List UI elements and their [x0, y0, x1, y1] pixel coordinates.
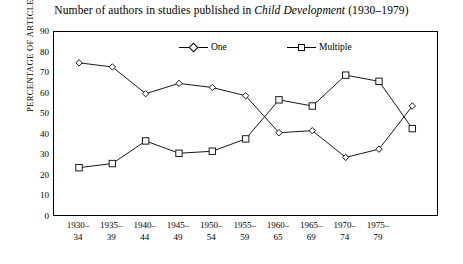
- legend-marker-diamond-icon: [189, 42, 199, 52]
- chart-title-journal: Child Development: [254, 4, 345, 16]
- series-layer: [54, 32, 439, 217]
- data-point-multiple-9: [376, 78, 382, 84]
- y-tick-label-10: 10: [23, 190, 49, 200]
- data-point-one-0: [76, 60, 82, 66]
- y-tick-label-70: 70: [23, 67, 49, 77]
- data-point-multiple-1: [109, 160, 115, 166]
- legend-label-multiple: Multiple: [319, 42, 352, 52]
- y-tick-label-0: 0: [23, 211, 49, 221]
- chart-figure: Number of authors in studies published i…: [0, 0, 463, 264]
- legend-line-right: [305, 47, 316, 48]
- legend-line-left: [287, 47, 298, 48]
- chart-title-before: Number of authors in studies published i…: [54, 4, 254, 16]
- chart-legend: OneMultiple: [54, 32, 439, 56]
- y-axis-tick-labels: 0102030405060708090: [0, 0, 49, 264]
- x-tick-label-1930-34: 1930–34: [67, 220, 90, 243]
- y-tick-label-20: 20: [23, 170, 49, 180]
- x-tick-label-1950-54: 1950–54: [200, 220, 223, 243]
- data-point-multiple-6: [276, 97, 282, 103]
- chart-title: Number of authors in studies published i…: [0, 4, 463, 16]
- data-point-multiple-8: [342, 72, 348, 78]
- x-tick-label-1960-65: 1960–65: [267, 220, 290, 243]
- x-tick-label-1940-44: 1940–44: [133, 220, 156, 243]
- legend-marker-square-icon: [298, 44, 305, 51]
- chart-title-after: (1930–1979): [345, 4, 408, 16]
- series-multiple: [76, 72, 416, 171]
- data-point-one-3: [176, 80, 182, 86]
- data-point-multiple-4: [209, 148, 215, 154]
- y-tick-label-60: 60: [23, 88, 49, 98]
- x-tick-label-1955-59: 1955–59: [233, 220, 256, 243]
- data-point-multiple-3: [176, 150, 182, 156]
- data-point-multiple-5: [242, 136, 248, 142]
- series-one: [76, 60, 416, 161]
- data-point-multiple-0: [76, 164, 82, 170]
- y-tick-label-50: 50: [23, 108, 49, 118]
- y-tick-label-40: 40: [23, 129, 49, 139]
- legend-item-multiple: Multiple: [287, 42, 352, 52]
- data-point-multiple-10: [409, 125, 415, 131]
- series-line-one: [79, 63, 412, 158]
- legend-label-one: One: [211, 42, 227, 52]
- data-point-multiple-2: [142, 138, 148, 144]
- plot-area: OneMultiple: [53, 31, 438, 216]
- x-axis-tick-labels: 1930–341935–391940–441945–491950–541955–…: [53, 220, 438, 264]
- x-tick-label-1965-69: 1965–69: [300, 220, 323, 243]
- x-tick-label-1935-39: 1935–39: [100, 220, 123, 243]
- x-tick-label-1970-74: 1970–74: [333, 220, 356, 243]
- y-tick-label-80: 80: [23, 47, 49, 57]
- y-tick-label-30: 30: [23, 149, 49, 159]
- legend-item-one: One: [179, 42, 227, 52]
- x-tick-label-1945-49: 1945–49: [167, 220, 190, 243]
- data-point-multiple-7: [309, 103, 315, 109]
- y-tick-label-90: 90: [23, 26, 49, 36]
- data-point-one-4: [209, 84, 215, 90]
- x-tick-label-1975-79: 1975–79: [367, 220, 390, 243]
